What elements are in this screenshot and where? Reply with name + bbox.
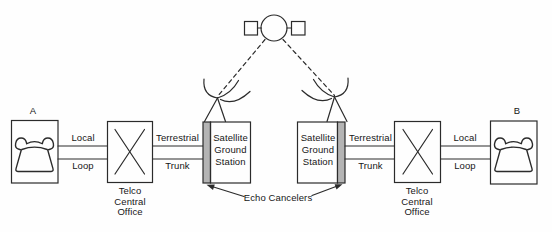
central-office-left-caption: Telco Central Office [95,186,165,218]
telephone-a-icon [15,138,53,171]
satellite-body [261,15,287,41]
terrestrial-trunk-right-lines [345,146,395,159]
terrestrial-trunk-left-lines [153,146,204,159]
phone-a-box [12,121,59,184]
satellite-icon [245,15,306,41]
terrestrial-label-right: Terrestrial [345,133,396,144]
local-label-left: Local [58,133,108,144]
downlink-left-dashed-line [218,40,266,97]
downlink-right-dashed-line [283,40,335,96]
terrestrial-label-left: Terrestrial [152,133,203,144]
ground-station-left-caption: Satellite Ground Station [209,132,253,168]
ground-station-right-caption: Satellite Ground Station [296,132,340,168]
switch-x-right-icon [403,130,433,175]
phone-b-box [491,121,538,184]
local-loop-left-lines [58,146,108,159]
endpoint-b-label: B [507,106,527,117]
trunk-label-left: Trunk [152,161,203,172]
trunk-label-right: Trunk [345,161,396,172]
central-office-right-caption: Telco Central Office [382,186,452,218]
local-loop-right-lines [441,146,491,159]
echo-cancelers-label: Echo Cancelers [238,193,318,204]
endpoint-a-label: A [23,106,43,117]
loop-label-left: Loop [58,161,108,172]
local-label-right: Local [440,133,490,144]
telephone-b-icon [494,138,532,171]
satellite-circuit-diagram: A B Local Loop Terrestrial Trunk Telco C… [0,0,552,232]
loop-label-right: Loop [440,161,490,172]
switch-x-left-icon [115,130,145,175]
satellite-left-panel [245,22,258,36]
satellite-right-panel [292,22,306,36]
